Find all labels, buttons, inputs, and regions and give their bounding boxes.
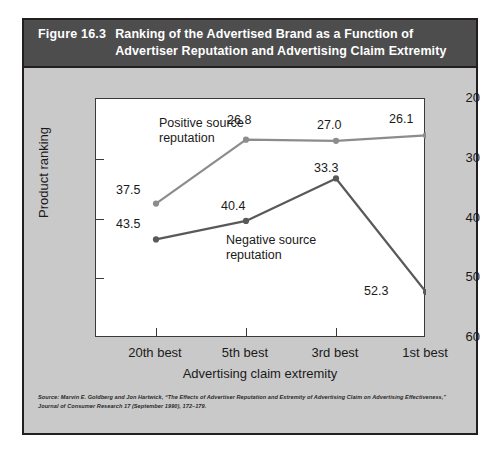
y-axis-label: Product ranking bbox=[36, 127, 51, 218]
x-tick-label: 1st best bbox=[380, 345, 470, 360]
x-tick-mark bbox=[336, 328, 337, 336]
y-tick-label: 40 bbox=[454, 210, 480, 225]
source-citation: Source: Marvin E. Goldberg and Jon Hartw… bbox=[38, 393, 462, 410]
chart-series-svg bbox=[96, 99, 426, 338]
figure-title-wrap: Figure 16.3 Ranking of the Advertised Br… bbox=[38, 26, 466, 60]
figure-header: Figure 16.3 Ranking of the Advertised Br… bbox=[24, 20, 476, 68]
x-tick-label: 3rd best bbox=[290, 345, 380, 360]
y-tick-label: 60 bbox=[454, 329, 480, 344]
point-label: 43.5 bbox=[116, 217, 140, 231]
y-tick-label: 20 bbox=[454, 90, 480, 105]
y-tick-mark bbox=[96, 159, 104, 160]
figure-body: Product ranking 20 30 40 50 60 bbox=[24, 68, 476, 433]
point-label: 40.4 bbox=[221, 199, 245, 213]
x-axis-label: Advertising claim extremity bbox=[95, 366, 425, 381]
y-tick-mark bbox=[96, 278, 104, 279]
point-label: 52.3 bbox=[364, 284, 388, 298]
y-tick-label: 30 bbox=[454, 150, 480, 165]
point-label: 33.3 bbox=[314, 161, 338, 175]
chart-plot-area: Product ranking 20 30 40 50 60 bbox=[24, 68, 480, 437]
point-label: 27.0 bbox=[317, 118, 341, 132]
y-tick-label: 50 bbox=[454, 269, 480, 284]
y-tick-mark bbox=[96, 219, 104, 220]
x-tick-mark bbox=[246, 328, 247, 336]
figure-card: Figure 16.3 Ranking of the Advertised Br… bbox=[22, 18, 478, 435]
point-label: 26.8 bbox=[227, 113, 251, 127]
x-tick-mark bbox=[156, 328, 157, 336]
point-label: 37.5 bbox=[116, 183, 140, 197]
figure-number: Figure 16.3 bbox=[38, 26, 115, 43]
series-line-positive-source-reputation bbox=[156, 135, 426, 203]
figure-title: Ranking of the Advertised Brand as a Fun… bbox=[115, 26, 466, 60]
x-tick-label: 20th best bbox=[110, 345, 200, 360]
plot-frame: Positive source reputation Negative sour… bbox=[95, 98, 425, 337]
series-annotation-negative: Negative source reputation bbox=[226, 233, 318, 262]
x-tick-label: 5th best bbox=[200, 345, 290, 360]
point-label: 26.1 bbox=[389, 112, 413, 126]
